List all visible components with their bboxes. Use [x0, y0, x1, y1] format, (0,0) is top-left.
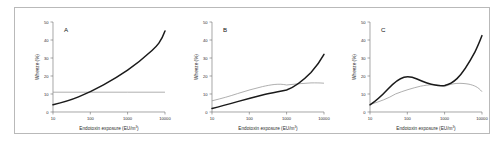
- x-tick-label-100: 100: [245, 116, 253, 121]
- y-axis-title: Wheeze (%): [352, 54, 357, 80]
- x-axis-title: Endotoxin exposure (EU/m3): [397, 125, 457, 131]
- y-tick-label-30: 30: [203, 56, 208, 61]
- x-axis-title: Endotoxin exposure (EU/m3): [238, 125, 298, 131]
- x-tick-label-10000: 10000: [477, 116, 489, 121]
- y-tick-label-20: 20: [44, 74, 49, 79]
- panel-a-plot: 0 10 20 30 40 50 10 100 1000 10000 Endot…: [15, 8, 174, 135]
- y-tick-label-0: 0: [46, 110, 49, 115]
- y-tick-label-10: 10: [203, 92, 208, 97]
- primary-curve: [53, 31, 165, 105]
- x-tick-label-10000: 10000: [159, 116, 171, 121]
- y-axis-title: Wheeze (%): [194, 54, 199, 80]
- y-tick-label-0: 0: [363, 110, 366, 115]
- x-tick-label-10000: 10000: [318, 116, 330, 121]
- x-tick-label-1000: 1000: [440, 116, 450, 121]
- y-tick-label-40: 40: [361, 38, 366, 43]
- panel-b-plot: 0 10 20 30 40 50 10 100 1000 10000 Endot…: [174, 8, 333, 135]
- x-tick-label-10: 10: [51, 116, 56, 121]
- x-tick-label-1000: 1000: [123, 116, 133, 121]
- y-tick-label-40: 40: [203, 38, 208, 43]
- y-tick-label-10: 10: [361, 92, 366, 97]
- panel-a: 0 10 20 30 40 50 10 100 1000 10000 Endot…: [15, 8, 174, 135]
- panel-c: 0 10 20 30 40 50 10 100 1000 10000 Endot…: [332, 8, 491, 135]
- y-tick-label-20: 20: [361, 74, 366, 79]
- primary-curve: [212, 54, 324, 108]
- secondary-curve: [212, 83, 324, 101]
- panel-letter-b: B: [223, 26, 227, 33]
- x-tick-label-100: 100: [87, 116, 95, 121]
- figure-border: 0 10 20 30 40 50 10 100 1000 10000 Endot…: [14, 7, 490, 134]
- panel-b: 0 10 20 30 40 50 10 100 1000 10000 Endot…: [174, 8, 333, 135]
- x-tick-label-10: 10: [368, 116, 373, 121]
- y-tick-label-50: 50: [203, 20, 208, 25]
- panel-letter-a: A: [64, 26, 69, 33]
- panel-row: 0 10 20 30 40 50 10 100 1000 10000 Endot…: [15, 8, 491, 135]
- y-tick-label-40: 40: [44, 38, 49, 43]
- x-axis-title: Endotoxin exposure (EU/m3): [79, 125, 139, 131]
- x-tick-label-1000: 1000: [282, 116, 292, 121]
- x-tick-label-10: 10: [209, 116, 214, 121]
- panel-b-axes: [209, 22, 323, 114]
- y-tick-label-20: 20: [203, 74, 208, 79]
- y-tick-label-30: 30: [361, 56, 366, 61]
- y-axis-title: Wheeze (%): [35, 54, 40, 80]
- y-tick-label-50: 50: [44, 20, 49, 25]
- secondary-curve: [370, 83, 482, 104]
- x-tick-label-100: 100: [404, 116, 412, 121]
- y-tick-label-10: 10: [44, 92, 49, 97]
- y-tick-label-30: 30: [44, 56, 49, 61]
- panel-letter-c: C: [381, 26, 386, 33]
- panel-c-plot: 0 10 20 30 40 50 10 100 1000 10000 Endot…: [332, 8, 491, 135]
- y-tick-label-50: 50: [361, 20, 366, 25]
- y-tick-label-0: 0: [205, 110, 208, 115]
- primary-curve: [370, 36, 482, 105]
